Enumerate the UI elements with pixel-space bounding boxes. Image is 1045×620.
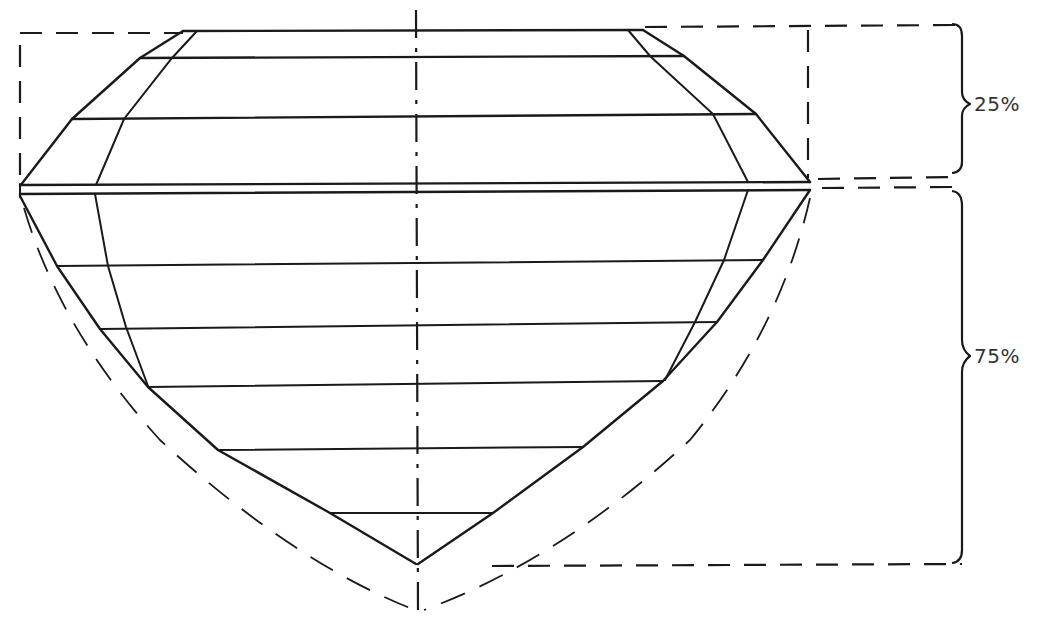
pavilion-brace [952,191,970,563]
gem-profile-diagram [0,0,1045,620]
girdle-extension-lines [818,177,955,188]
crown-facets [20,30,810,186]
pavilion-facets [20,190,810,564]
crown-percent-label: 25% [974,92,1020,116]
center-axis [416,10,418,612]
culet-extension-line [492,564,962,566]
girdle [20,182,810,197]
crown-brace [952,24,970,173]
pavilion-percent-label: 75% [974,344,1020,368]
crown-bounding-box [20,25,958,180]
